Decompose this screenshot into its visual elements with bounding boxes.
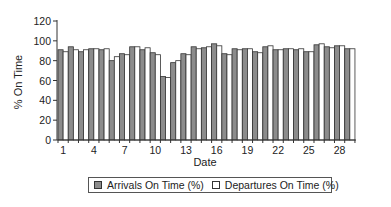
legend-label-arrivals: Arrivals On Time (%) xyxy=(107,179,204,191)
bar-departures xyxy=(155,55,160,140)
bar-arrivals xyxy=(263,47,268,140)
bar-arrivals xyxy=(160,77,165,140)
x-tick-label: 10 xyxy=(149,144,161,156)
x-tick-label: 25 xyxy=(303,144,315,156)
bar-departures xyxy=(145,48,150,140)
bar-departures xyxy=(227,55,232,140)
bar-departures xyxy=(350,49,355,140)
bar-departures xyxy=(329,48,334,140)
bar-departures xyxy=(217,46,222,140)
bar-departures xyxy=(268,46,273,140)
arrivals-swatch-icon xyxy=(94,181,102,189)
bar-arrivals xyxy=(334,46,339,140)
x-tick-label: 1 xyxy=(60,144,66,156)
x-tick-label: 16 xyxy=(211,144,223,156)
bar-chart: 020406080100120 14710131619222528 Date %… xyxy=(0,0,391,175)
y-tick-label: 80 xyxy=(39,55,51,67)
y-axis: 020406080100120 xyxy=(33,15,57,146)
y-tick-label: 0 xyxy=(45,134,51,146)
bar-arrivals xyxy=(283,49,288,140)
bar-arrivals xyxy=(119,54,124,140)
bar-arrivals xyxy=(58,50,63,140)
bar-departures xyxy=(73,50,78,140)
bar-arrivals xyxy=(324,47,329,140)
legend-label-departures: Departures On Time (%) xyxy=(225,179,339,191)
y-tick-label: 20 xyxy=(39,114,51,126)
bar-arrivals xyxy=(314,45,319,140)
bar-departures xyxy=(319,44,324,140)
bar-departures xyxy=(186,55,191,140)
bar-arrivals xyxy=(345,49,350,140)
bar-departures xyxy=(196,49,201,140)
bar-arrivals xyxy=(181,54,186,140)
legend-item-arrivals: Arrivals On Time (%) xyxy=(94,179,204,191)
bar-arrivals xyxy=(212,44,217,140)
bar-departures xyxy=(247,49,252,140)
x-axis-title: Date xyxy=(193,156,216,168)
x-tick-label: 28 xyxy=(334,144,346,156)
bar-arrivals xyxy=(253,52,258,140)
bar-arrivals xyxy=(232,49,237,140)
bar-arrivals xyxy=(78,52,83,140)
y-tick-label: 40 xyxy=(39,94,51,106)
bar-departures xyxy=(299,49,304,140)
y-tick-label: 120 xyxy=(33,15,51,27)
bar-departures xyxy=(104,49,109,140)
bar-departures xyxy=(340,46,345,140)
bar-arrivals xyxy=(171,63,176,140)
bar-departures xyxy=(258,53,263,140)
legend: Arrivals On Time (%) Departures On Time … xyxy=(88,177,332,193)
bar-arrivals xyxy=(68,47,73,140)
bar-departures xyxy=(278,50,283,140)
bar-departures xyxy=(94,49,99,140)
bar-departures xyxy=(206,47,211,140)
bar-arrivals xyxy=(130,47,135,140)
bar-departures xyxy=(114,57,119,140)
x-tick-label: 13 xyxy=(180,144,192,156)
bar-departures xyxy=(288,49,293,140)
bar-departures xyxy=(84,50,89,140)
bar-departures xyxy=(237,50,242,140)
bar-series xyxy=(58,44,355,140)
bar-arrivals xyxy=(150,53,155,140)
bar-arrivals xyxy=(273,50,278,140)
bar-arrivals xyxy=(294,50,299,140)
bar-arrivals xyxy=(191,47,196,140)
bar-departures xyxy=(135,47,140,140)
x-tick-label: 4 xyxy=(91,144,97,156)
x-tick-label: 19 xyxy=(242,144,254,156)
bar-arrivals xyxy=(242,49,247,140)
bar-arrivals xyxy=(201,48,206,140)
bar-departures xyxy=(176,61,181,140)
bar-arrivals xyxy=(89,49,94,140)
legend-item-departures: Departures On Time (%) xyxy=(212,179,339,191)
bar-arrivals xyxy=(304,52,309,140)
y-tick-label: 60 xyxy=(39,75,51,87)
bar-arrivals xyxy=(109,61,114,140)
bar-departures xyxy=(309,52,314,140)
bar-departures xyxy=(166,78,171,140)
x-axis: 14710131619222528 xyxy=(57,140,356,156)
bar-departures xyxy=(125,55,130,140)
x-tick-label: 7 xyxy=(122,144,128,156)
bar-arrivals xyxy=(140,50,145,140)
bar-arrivals xyxy=(99,50,104,140)
y-tick-label: 100 xyxy=(33,35,51,47)
x-tick-label: 22 xyxy=(272,144,284,156)
bar-departures xyxy=(63,52,68,140)
y-axis-title: % On Time xyxy=(12,55,24,109)
departures-swatch-icon xyxy=(212,181,220,189)
bar-arrivals xyxy=(222,54,227,140)
